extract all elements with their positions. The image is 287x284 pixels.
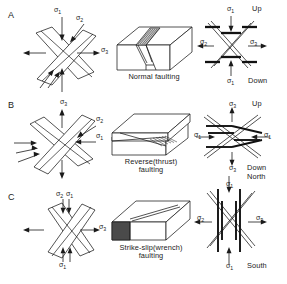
sigma-label: σ1 [226,180,233,189]
sigma-label: σ2 [56,190,63,199]
fault-types-figure: A B C [0,0,287,284]
row-c-graphics [0,0,287,284]
orientation-label-south: South [247,261,267,270]
strikeslip-fault-stress-block [23,199,100,262]
strikeslip-fault-block-diagram [112,201,190,240]
sigma-label: σ2 [197,214,204,223]
sigma-label: σ1 [66,190,73,199]
sigma-label: σ1 [226,262,233,271]
sigma-label: σ1 [59,261,66,270]
sigma-label: σ3 [256,214,263,223]
caption-strikeslip-faulting-line2: faulting [105,252,197,261]
sigma-label: σ3 [99,223,106,232]
